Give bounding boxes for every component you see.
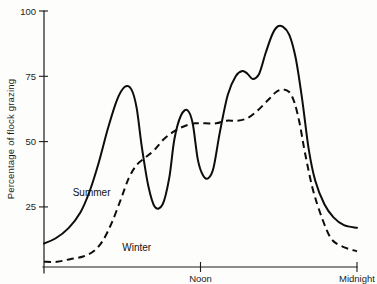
series-label-winter: Winter bbox=[122, 242, 152, 253]
y-tick-label-75: 75 bbox=[25, 71, 36, 82]
series-line-summer bbox=[44, 26, 357, 244]
y-tick-label-100: 100 bbox=[20, 6, 36, 17]
y-axis-title: Percentage of flock grazing bbox=[5, 79, 16, 200]
series-label-summer: Summer bbox=[73, 187, 111, 198]
y-axis-tick-labels: 255075100 bbox=[20, 6, 36, 213]
x-axis-tick-labels: NoonMidnight bbox=[189, 273, 375, 284]
chart-container: 255075100 NoonMidnight Percentage of flo… bbox=[0, 0, 377, 284]
x-tick-label-midnight: Midnight bbox=[339, 273, 375, 284]
grazing-line-chart: 255075100 NoonMidnight Percentage of flo… bbox=[0, 0, 377, 284]
y-tick-label-25: 25 bbox=[25, 201, 36, 212]
y-tick-label-50: 50 bbox=[25, 136, 36, 147]
series-annotations: SummerWinter bbox=[73, 187, 152, 253]
x-tick-label-noon: Noon bbox=[189, 273, 212, 284]
series-line-winter bbox=[44, 89, 357, 262]
